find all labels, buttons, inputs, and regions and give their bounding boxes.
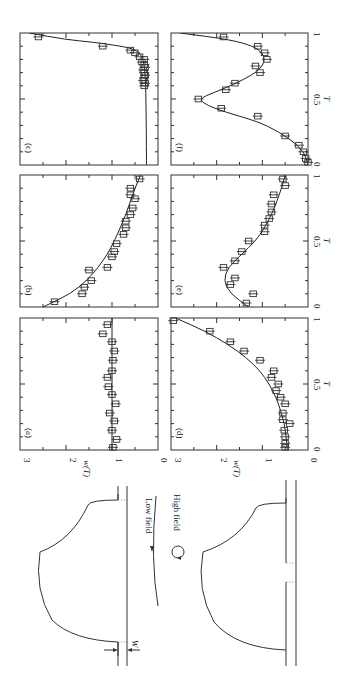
figure: (a)(b)(c)(d)(e)(f) 3 2 1 0 w(T) 3 2 1 0 … (0, 0, 348, 688)
w-tick-0-a: 0 (159, 458, 169, 463)
w-arrowhead-left (113, 648, 118, 652)
chart-panel: (e) (171, 175, 308, 307)
panel-label: (a) (24, 428, 34, 438)
t-tick-0-e: 0 (312, 304, 322, 309)
t-axis-labels: 1 0.5 T 0 1 0.5 T 0 1 0.5 T 0 (312, 32, 332, 452)
w-tick-1-a: 1 (114, 458, 124, 463)
w-arrowhead-right (127, 648, 132, 652)
low-field-label: Low field (144, 498, 154, 534)
t-tick-1-d: 1 (312, 317, 322, 322)
t-tick-0-f: 0 (312, 162, 322, 167)
t-tick-1-e: 1 (312, 174, 322, 179)
billiard-diagram: W Low field High field (39, 480, 297, 666)
w-axis-label-a: w(T) (82, 460, 92, 477)
chart-panel: (d) (168, 318, 308, 450)
cavity-outline-upper (39, 494, 119, 656)
w-tick-3-a: 3 (22, 458, 32, 463)
w-tick-2-a: 2 (68, 458, 78, 463)
chart-panel: (a) (20, 318, 158, 450)
panel-label: (e) (175, 285, 185, 295)
high-field-label: High field (172, 494, 182, 531)
chart-panel: (c) (20, 33, 158, 165)
w-tick-3-d: 3 (173, 458, 183, 463)
panel-label: (c) (24, 143, 34, 153)
panels-group: (a)(b)(c)(d)(e)(f) (20, 33, 313, 450)
t-tick-05-e: 0.5 (312, 236, 322, 248)
panel-frame (171, 33, 308, 165)
panel-label: (d) (175, 428, 185, 439)
cavity-outline-lower (201, 498, 286, 650)
t-tick-05-f: 0.5 (312, 94, 322, 106)
t-tick-05-d: 0.5 (312, 379, 322, 391)
high-field-arrow (177, 556, 181, 560)
t-label-d: T (322, 381, 332, 387)
w-tick-1-d: 1 (264, 458, 274, 463)
w-axis-label-d: w(T) (232, 460, 242, 477)
panel-frame (171, 175, 308, 307)
chart-panel: (b) (20, 175, 158, 307)
t-label-f: T (322, 96, 332, 102)
panel-label: (b) (24, 285, 34, 296)
width-label: W (130, 640, 140, 649)
t-tick-1-f: 1 (312, 32, 322, 37)
w-axis-labels-d: 3 2 1 0 w(T) (173, 458, 319, 477)
w-tick-0-d: 0 (309, 458, 319, 463)
panel-frame (20, 318, 158, 450)
high-field-orbit (172, 546, 184, 558)
panel-label: (f) (175, 143, 185, 152)
t-label-e: T (322, 238, 332, 244)
fit-curve (176, 318, 288, 450)
t-tick-0-d: 0 (312, 447, 322, 452)
chart-panel: (f) (171, 33, 313, 165)
w-axis-labels-a: 3 2 1 0 w(T) (22, 458, 169, 477)
w-tick-2-d: 2 (219, 458, 229, 463)
